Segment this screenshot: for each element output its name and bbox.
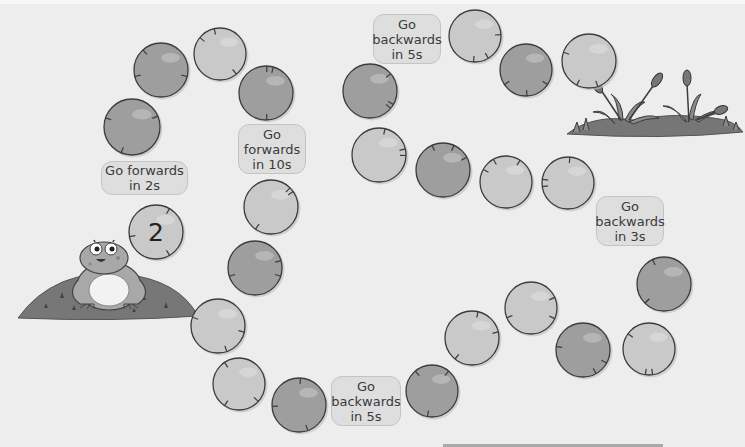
lily-pad	[633, 253, 695, 315]
game-board: 2	[0, 0, 745, 447]
lily-pad	[235, 62, 297, 124]
instruction-line: Go	[263, 127, 281, 142]
lily-pad	[130, 39, 192, 101]
lily-pad	[224, 237, 286, 299]
lily-pad	[552, 319, 614, 381]
lily-pad	[476, 152, 536, 212]
pad-number: 2	[125, 201, 187, 263]
lily-pad	[402, 361, 462, 421]
instruction-go-forwards-10s: Go forwards in 10s	[238, 124, 306, 174]
instruction-line: backwards	[372, 32, 442, 47]
top-edge	[0, 0, 745, 4]
lily-pad	[240, 176, 302, 238]
instruction-line: in 5s	[350, 409, 381, 424]
instruction-line: in 5s	[391, 47, 422, 62]
lily-pad	[209, 354, 269, 414]
instruction-go-backwards-5s-bottom: Go backwards in 5s	[331, 376, 401, 426]
instruction-line: Go forwards	[105, 163, 184, 178]
instruction-line: forwards	[244, 142, 301, 157]
lily-pad	[100, 95, 164, 159]
instruction-line: in 2s	[129, 178, 160, 193]
instruction-line: Go	[621, 199, 639, 214]
lily-pad	[558, 30, 620, 92]
instruction-line: Go	[357, 379, 375, 394]
instruction-go-backwards-3s: Go backwards in 3s	[596, 196, 664, 246]
lily-pad	[339, 60, 401, 122]
instruction-line: backwards	[595, 214, 665, 229]
lily-pad	[441, 307, 503, 369]
lily-pad	[496, 40, 556, 100]
lily-pad	[538, 153, 598, 213]
lily-pad	[187, 295, 249, 357]
lily-pad	[412, 139, 474, 201]
lily-pad	[268, 374, 330, 436]
instruction-line: backwards	[331, 394, 401, 409]
lily-pad	[619, 319, 679, 379]
lily-pad	[348, 124, 410, 186]
instruction-line: in 3s	[614, 229, 645, 244]
instruction-line: in 10s	[252, 157, 291, 172]
instruction-line: Go	[398, 17, 416, 32]
instruction-go-forwards-2s: Go forwards in 2s	[101, 161, 188, 195]
lily-pad: 2	[125, 201, 187, 263]
instruction-go-backwards-5s-top: Go backwards in 5s	[373, 14, 441, 64]
